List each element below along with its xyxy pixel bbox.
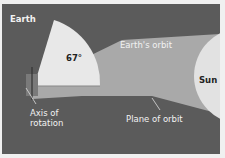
axis-label-line2: rotation bbox=[30, 118, 63, 128]
plane-of-orbit-label: Plane of orbit bbox=[126, 114, 183, 124]
sun-label: Sun bbox=[199, 75, 217, 85]
earth-label: Earth bbox=[10, 14, 36, 24]
diagram-canvas bbox=[2, 4, 220, 154]
axis-label-line1: Axis of bbox=[30, 108, 59, 118]
diagram-frame: Earth 67° Earth's orbit Sun Axis of rota… bbox=[2, 4, 220, 154]
plane-pointer bbox=[152, 98, 160, 110]
angle-label: 67° bbox=[66, 53, 82, 63]
earths-orbit-label: Earth's orbit bbox=[120, 40, 172, 50]
